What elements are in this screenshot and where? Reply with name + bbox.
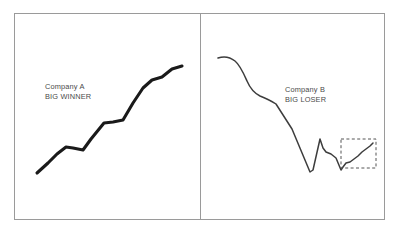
label-company-b-name: Company B	[285, 85, 325, 94]
label-company-b: Company B BIG LOSER	[285, 85, 326, 105]
figure-screenshot: Company A BIG WINNER Company B BIG LOSER	[0, 0, 400, 232]
label-company-b-tagline: BIG LOSER	[285, 95, 326, 105]
label-company-a-tagline: BIG WINNER	[45, 92, 91, 102]
line-company-b	[218, 57, 373, 172]
label-company-a: Company A BIG WINNER	[45, 82, 91, 102]
charts-canvas	[0, 0, 400, 232]
label-company-a-name: Company A	[45, 82, 85, 91]
chart-company-b	[218, 57, 376, 172]
